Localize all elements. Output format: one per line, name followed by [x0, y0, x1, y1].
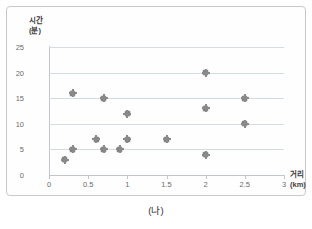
plot-area: [49, 47, 284, 175]
gridline: [49, 73, 284, 74]
y-tick-label: 20: [4, 68, 24, 77]
x-tick-mark: [167, 175, 168, 179]
data-point: [94, 137, 99, 142]
scatter-chart-figure: 시간 (분) 거리 (km) 0510152025 00.511.522.53 …: [0, 0, 312, 229]
x-tick-label: 3: [282, 180, 286, 189]
x-tick-mark: [88, 175, 89, 179]
data-point: [203, 152, 208, 157]
x-tick-label: 0.5: [83, 180, 93, 189]
data-point: [242, 96, 247, 101]
y-axis-title-unit: (분): [29, 26, 43, 36]
y-axis-title-text: 시간: [29, 16, 43, 26]
data-point: [70, 147, 75, 152]
data-point: [164, 137, 169, 142]
data-point: [101, 147, 106, 152]
y-tick-label: 5: [4, 145, 24, 154]
x-axis-title-unit: (km): [290, 180, 306, 190]
data-point: [62, 157, 67, 162]
y-tick-label: 15: [4, 94, 24, 103]
chart-frame: 시간 (분) 거리 (km) 0510152025 00.511.522.53: [6, 6, 306, 196]
x-tick-mark: [49, 175, 50, 179]
data-point: [101, 96, 106, 101]
data-point: [203, 106, 208, 111]
y-tick-label: 25: [4, 43, 24, 52]
gridline: [49, 47, 284, 48]
data-point: [125, 137, 130, 142]
x-tick-label: 1: [125, 180, 129, 189]
y-axis-title: 시간 (분): [29, 16, 43, 36]
x-tick-label: 2: [204, 180, 208, 189]
y-tick-label: 0: [4, 171, 24, 180]
y-tick-label: 10: [4, 119, 24, 128]
x-tick-mark: [127, 175, 128, 179]
x-tick-label: 2.5: [240, 180, 250, 189]
data-point: [125, 111, 130, 116]
data-point: [203, 70, 208, 75]
x-tick-mark: [206, 175, 207, 179]
data-point: [242, 121, 247, 126]
gridline: [49, 149, 284, 150]
x-axis-title-text: 거리: [290, 170, 306, 180]
x-tick-mark: [245, 175, 246, 179]
data-point: [70, 91, 75, 96]
x-axis-title: 거리 (km): [290, 170, 306, 190]
data-point: [117, 147, 122, 152]
x-tick-label: 1.5: [161, 180, 171, 189]
figure-caption: (나): [0, 203, 312, 217]
x-tick-label: 0: [47, 180, 51, 189]
x-tick-mark: [284, 175, 285, 179]
